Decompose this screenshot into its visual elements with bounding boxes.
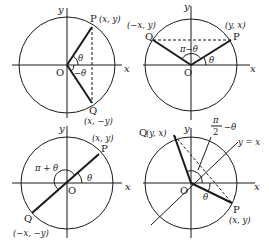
point-q-coords: (−x, −y)	[13, 228, 49, 238]
angle-pi-plus-theta-label: π + θ	[34, 163, 58, 173]
angle-arc-theta	[78, 173, 82, 183]
x-axis-label: x	[254, 181, 260, 192]
angle-pointer-line	[198, 137, 211, 170]
point-p-label: P	[101, 143, 108, 154]
point-q-label: Q	[145, 31, 153, 42]
angle-neg-theta-label: −θ	[74, 68, 86, 78]
angle-pi-minus-theta-label: π−θ	[179, 44, 198, 54]
angle-arc-theta	[208, 183, 210, 192]
origin-label: O	[68, 185, 76, 196]
angle-arc-theta	[204, 58, 206, 65]
origin-label: O	[56, 67, 64, 78]
angle-theta-label: θ	[78, 53, 83, 63]
point-p-label: P	[233, 204, 240, 215]
point-q-coords: (−x, y)	[127, 20, 156, 30]
y-axis-label: y	[58, 123, 65, 134]
angle-theta-label: θ	[209, 55, 214, 65]
point-p-coords: (y, x)	[225, 20, 246, 30]
x-axis-label: x	[250, 63, 256, 74]
point-p-coords: (x, y)	[99, 14, 121, 24]
point-p-label: P	[90, 13, 97, 24]
angle-frac-numerator: π	[212, 115, 219, 125]
x-axis-label: x	[124, 63, 130, 74]
point-q-label: Q	[24, 213, 32, 224]
origin-label: O	[180, 185, 188, 196]
panel-half-pi-minus-theta: y x O y = x P (x, y) Q (y, x) θ π 2 −θ	[139, 115, 260, 238]
panel-pi-minus-theta: y x O P (y, x) Q (−x, y) θ π−θ	[127, 1, 256, 120]
angle-frac-rest: −θ	[224, 122, 236, 132]
angle-theta-label: θ	[87, 173, 92, 183]
point-q-label: Q	[89, 105, 97, 116]
point-p-coords: (x, y)	[92, 133, 114, 143]
radius-op	[191, 183, 232, 203]
line-y-equals-x-label: y = x	[237, 137, 260, 147]
panel-negative-angle: y x O P (x, y) Q (x, −y) θ −θ	[12, 4, 130, 126]
y-axis-label: y	[57, 4, 64, 15]
point-p-coords: (x, y)	[229, 215, 251, 225]
y-axis-label: y	[183, 1, 190, 12]
point-q-coords: (x, −y)	[84, 116, 113, 126]
angle-frac-denominator: 2	[213, 127, 218, 137]
point-p-label: P	[233, 31, 240, 42]
origin-label: O	[184, 67, 192, 78]
y-axis-label: y	[183, 123, 190, 134]
panel-pi-plus-theta: y x O P (x, y) Q (−x, −y) θ π + θ	[12, 123, 131, 238]
point-q-coords: (y, x)	[146, 128, 167, 138]
trig-symmetry-figure: y x O P (x, y) Q (x, −y) θ −θ y x O P (y…	[0, 0, 269, 244]
x-axis-label: x	[125, 181, 131, 192]
angle-theta-label: θ	[203, 192, 208, 202]
radius-oq	[174, 135, 191, 183]
